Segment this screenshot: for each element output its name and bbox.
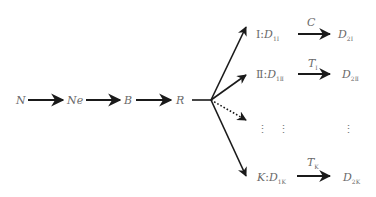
- edge-label-c: C: [307, 16, 316, 29]
- ellipsis-row: ⋮ ⋮ ⋮: [257, 123, 354, 136]
- svg-text:⋮: ⋮: [343, 123, 354, 136]
- svg-text:D2Ⅰ: D2Ⅰ: [337, 28, 354, 42]
- svg-text:K:D1K: K:D1K: [256, 171, 287, 185]
- svg-text:Ⅱ:D1Ⅱ: Ⅱ:D1Ⅱ: [256, 68, 284, 82]
- node-r: R: [175, 94, 184, 107]
- node-n: N: [15, 94, 26, 107]
- node-b: B: [123, 94, 132, 107]
- svg-text:TK: TK: [307, 156, 319, 170]
- svg-text:Ⅰ:D1Ⅰ: Ⅰ:D1Ⅰ: [256, 28, 280, 42]
- branch-k: K:D1K TK D2K: [256, 156, 361, 185]
- svg-text:D2K: D2K: [342, 171, 361, 185]
- process-diagram: N Ne B R Ⅰ:D1Ⅰ C D2Ⅰ Ⅱ:D1Ⅱ TⅠ D2Ⅱ ⋮ ⋮ ⋮ …: [0, 0, 376, 197]
- branch-1: Ⅰ:D1Ⅰ C D2Ⅰ: [256, 16, 354, 42]
- svg-text:D2Ⅱ: D2Ⅱ: [341, 68, 359, 82]
- svg-text:⋮: ⋮: [257, 123, 268, 136]
- svg-text:TⅠ: TⅠ: [308, 57, 318, 71]
- arrow-branch-k: [211, 100, 246, 176]
- svg-text:⋮: ⋮: [278, 123, 289, 136]
- branch-2: Ⅱ:D1Ⅱ TⅠ D2Ⅱ: [256, 57, 359, 82]
- node-ne: Ne: [66, 94, 84, 107]
- arrow-branch-1: [211, 27, 246, 100]
